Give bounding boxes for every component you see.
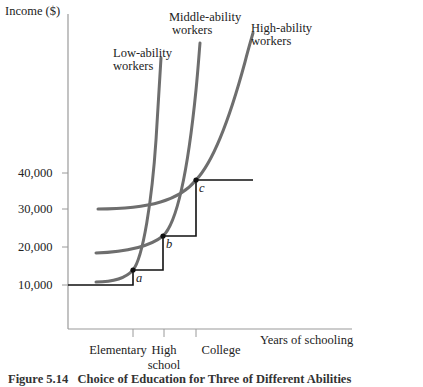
point-c-label: c — [199, 181, 205, 196]
x-tick-marks — [133, 329, 196, 337]
middle-ability-label-line2: workers — [169, 24, 241, 37]
middle-ability-label: Middle-ability workers — [169, 11, 241, 37]
point-b-marker — [160, 233, 165, 238]
figure-caption: Figure 5.14 Choice of Education for Thre… — [8, 372, 351, 387]
low-ability-label: Low-ability workers — [113, 47, 172, 73]
earnings-step-line — [68, 180, 253, 285]
high-ability-label-line2: workers — [251, 35, 312, 48]
figure-number: Figure 5.14 — [8, 372, 68, 386]
point-a-label: a — [136, 271, 142, 286]
x-tick-college: College — [191, 343, 251, 358]
low-ability-label-line2: workers — [113, 60, 172, 73]
x-tick-high-school: High school — [144, 343, 184, 373]
x-axis-label: Years of schooling — [260, 334, 353, 347]
high-ability-label: High-ability workers — [251, 22, 312, 48]
y-tick-marks — [62, 173, 68, 285]
y-axis-label: Income ($) — [5, 5, 60, 18]
y-tick-20000: 20,000 — [18, 241, 52, 254]
figure-caption-text: Choice of Education for Three of Differe… — [78, 372, 352, 386]
point-b-label: b — [166, 237, 172, 252]
y-tick-30000: 30,000 — [18, 203, 52, 216]
y-tick-40000: 40,000 — [18, 167, 52, 180]
point-c-marker — [193, 177, 198, 182]
y-tick-10000: 10,000 — [18, 279, 52, 292]
point-a-marker — [130, 267, 135, 272]
